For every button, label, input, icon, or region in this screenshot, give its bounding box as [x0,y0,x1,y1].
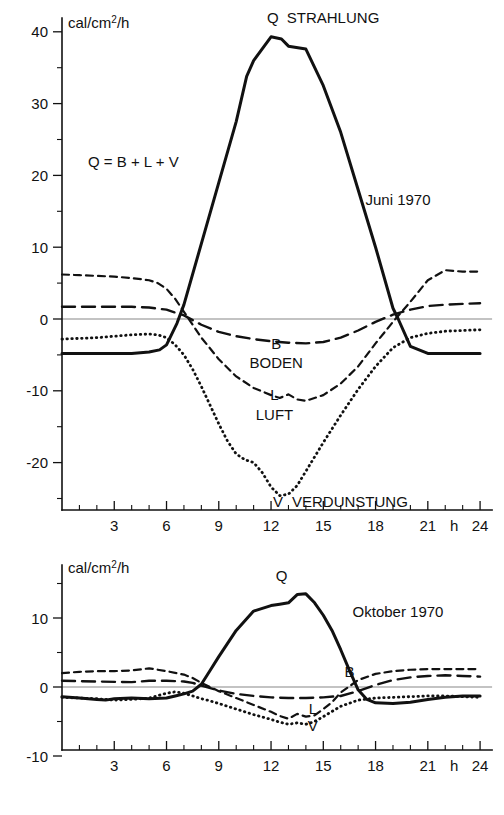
y-axis-tick-label: -20 [26,454,48,471]
x-axis-tick-label: 21 [419,757,436,774]
series-letter-B: B [344,663,354,680]
x-axis-tick-label: 6 [162,757,170,774]
y-axis-tick-label: 0 [40,679,48,696]
y-axis-tick-label: 10 [31,610,48,627]
y-axis-tick-label: 40 [31,23,48,40]
x-axis-unit-label: h [450,757,458,774]
series-name-B: BODEN [250,354,303,371]
x-axis-tick-label: 24 [472,757,489,774]
x-axis-tick-label: 3 [110,517,118,534]
x-axis-tick-label: 18 [367,757,384,774]
series-letter-Q: Q [276,567,288,584]
y-axis-tick-label: 0 [40,311,48,328]
y-axis-tick-label: -10 [26,748,48,765]
y-axis-tick-label: 20 [31,167,48,184]
y-axis-tick-label: 10 [31,239,48,256]
series-letter-V: V [308,717,318,734]
series-letter-Q: Q [267,9,279,26]
x-axis-unit-label: h [450,517,458,534]
x-axis-tick-label: 18 [367,517,384,534]
x-axis-tick-label: 15 [315,757,332,774]
x-axis-tick-label: 15 [315,517,332,534]
series-name-L: LUFT [256,406,294,423]
series-letter-L: L [309,700,317,717]
energy-balance-equation: Q = B + L + V [88,153,179,170]
y-axis-unit-label: cal/cm2/h [68,14,129,32]
y-axis-tick-label: -10 [26,382,48,399]
series-name-V: VERDUNSTUNG [292,493,408,510]
x-axis-tick-label: 21 [419,517,436,534]
x-axis-tick-label: 6 [162,517,170,534]
june-1970-chart: -20-100102030403691215182124hcal/cm2/hJu… [0,0,504,545]
x-axis-tick-label: 9 [215,757,223,774]
chart-panel-october: -100103691215182124hcal/cm2/hOktober 197… [0,545,504,815]
series-letter-B: B [271,335,281,352]
october-1970-chart: -100103691215182124hcal/cm2/hOktober 197… [0,545,504,815]
y-axis-unit-label: cal/cm2/h [68,559,129,577]
x-axis-tick-label: 12 [263,757,280,774]
x-axis-tick-label: 9 [215,517,223,534]
series-letter-V: V [273,493,283,510]
chart-title-label: Juni 1970 [365,191,430,208]
x-axis-tick-label: 3 [110,757,118,774]
x-axis-tick-label: 24 [472,517,489,534]
energy-balance-figure: -20-100102030403691215182124hcal/cm2/hJu… [0,0,504,815]
y-axis-tick-label: 30 [31,95,48,112]
chart-title-label: Oktober 1970 [353,603,444,620]
x-axis-tick-label: 12 [263,517,280,534]
chart-panel-june: -20-100102030403691215182124hcal/cm2/hJu… [0,0,504,545]
series-name-Q: STRAHLUNG [287,9,380,26]
series-letter-L: L [270,386,278,403]
